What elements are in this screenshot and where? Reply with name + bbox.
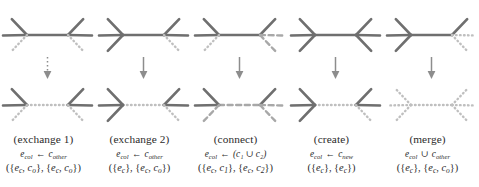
- left-spoke-0: [300, 19, 315, 35]
- right-spoke-0: [164, 19, 179, 35]
- right-spoke-2: [164, 35, 179, 51]
- diagram-pair-connect: [192, 0, 287, 133]
- left-spoke-2: [108, 35, 123, 51]
- column-exchange-2: (exchange 2)ecol ← cother({ec}, {ec, co}…: [96, 0, 191, 187]
- right-spoke-0: [68, 89, 83, 105]
- diagram-pair-merge: [384, 0, 479, 133]
- subscript: col: [120, 153, 128, 160]
- right-spoke-0: [260, 19, 275, 35]
- left-spoke-0: [108, 89, 123, 105]
- right-spoke-2: [68, 35, 83, 51]
- left-spoke-2: [204, 105, 219, 121]
- left-spoke-2: [12, 35, 27, 51]
- operation-sets: ({ec}, {ec, co}): [372, 162, 479, 174]
- right-spoke-2: [356, 105, 371, 121]
- left-spoke-0: [396, 19, 411, 35]
- left-spoke-0: [204, 19, 219, 35]
- right-spoke-0: [356, 19, 371, 35]
- column-merge: (merge)ecol ∪ cother({ec}, {ec, co}): [384, 0, 479, 187]
- diagram-pair-exchange-2: [96, 0, 191, 133]
- left-spoke-0: [12, 89, 27, 105]
- figure-graph-operations: (exchange 1)ecol ← cother({ec, co}, {ec,…: [0, 0, 479, 187]
- right-spoke-2: [260, 35, 275, 51]
- subscript: col: [314, 153, 322, 160]
- operation-rule: ecol ∪ cother: [372, 149, 479, 159]
- left-spoke-0: [12, 19, 27, 35]
- right-spoke-0: [260, 89, 275, 105]
- left-spoke-0: [300, 89, 315, 105]
- right-spoke-0: [164, 89, 179, 105]
- left-spoke-2: [204, 35, 219, 51]
- subscript: col: [24, 153, 32, 160]
- right-spoke-2: [68, 105, 83, 121]
- left-spoke-2: [108, 105, 123, 121]
- left-spoke-0: [396, 89, 411, 105]
- subscript: col: [209, 153, 217, 160]
- left-spoke-2: [396, 105, 411, 121]
- graph-after-create: [288, 74, 383, 136]
- right-spoke-0: [356, 89, 371, 105]
- subscript: col: [409, 153, 417, 160]
- subscript: other: [53, 153, 67, 160]
- right-spoke-0: [452, 19, 467, 35]
- left-spoke-2: [300, 35, 315, 51]
- left-spoke-2: [300, 105, 315, 121]
- right-spoke-0: [452, 89, 467, 105]
- right-spoke-2: [260, 105, 275, 121]
- caption-merge: (merge)ecol ∪ cother({ec}, {ec, co}): [372, 133, 479, 174]
- graph-after-merge: [384, 74, 479, 136]
- column-connect: (connect)ecol ← (c₁ ∪ c₂)({ec, c1}, {ec,…: [192, 0, 287, 187]
- right-spoke-2: [452, 105, 467, 121]
- diagram-pair-exchange-1: [0, 0, 95, 133]
- column-create: (create)ecol ← cnew({ec}, {ec}): [288, 0, 383, 187]
- right-spoke-2: [356, 35, 371, 51]
- subscript: new: [342, 153, 353, 160]
- left-spoke-0: [108, 19, 123, 35]
- diagram-pair-create: [288, 0, 383, 133]
- subscript: other: [436, 153, 450, 160]
- graph-after-exchange-2: [96, 74, 191, 136]
- right-spoke-2: [452, 35, 467, 51]
- graph-after-connect: [192, 74, 287, 136]
- right-spoke-2: [164, 105, 179, 121]
- graph-after-exchange-1: [0, 74, 95, 136]
- left-spoke-0: [204, 89, 219, 105]
- column-exchange-1: (exchange 1)ecol ← cother({ec, co}, {ec,…: [0, 0, 95, 187]
- left-spoke-2: [12, 105, 27, 121]
- subscript: other: [149, 153, 163, 160]
- right-spoke-0: [68, 19, 83, 35]
- left-spoke-2: [396, 35, 411, 51]
